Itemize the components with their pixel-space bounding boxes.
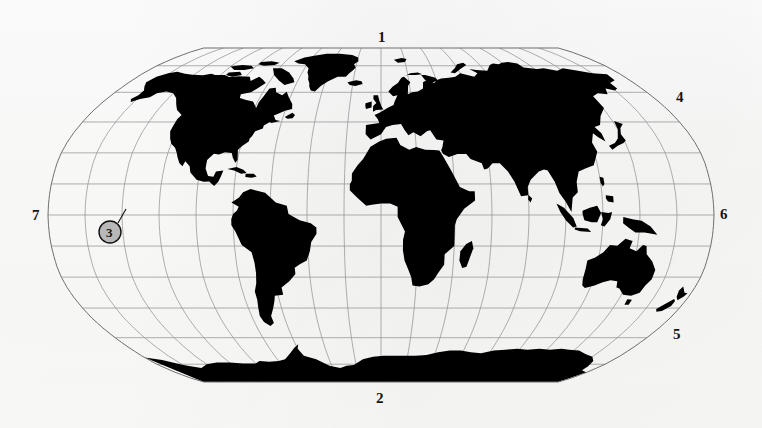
land-australia — [582, 239, 655, 296]
land-newfoundland — [285, 113, 295, 119]
land-africa — [350, 138, 475, 287]
land-japan — [609, 121, 626, 150]
landmasses — [131, 54, 688, 382]
map-label-6: 6 — [720, 207, 728, 222]
map-label-4: 4 — [676, 90, 684, 105]
land-java — [575, 227, 591, 232]
map-label-7: 7 — [32, 208, 40, 223]
land-svalbard — [394, 58, 407, 63]
land-new-zealand-north — [677, 286, 688, 300]
land-borneo — [583, 206, 602, 223]
land-tasmania — [624, 299, 632, 305]
map-label-5: 5 — [673, 327, 681, 342]
land-south-america — [231, 189, 316, 326]
map-label-2: 2 — [376, 391, 384, 406]
land-antarctica — [145, 344, 594, 382]
land-madagascar — [459, 241, 473, 268]
land-britain — [373, 95, 383, 112]
map-callout-label-3: 3 — [106, 226, 113, 239]
map-label-1: 1 — [378, 30, 386, 45]
land-new-zealand-south — [656, 299, 675, 312]
land-greenland — [294, 54, 358, 92]
land-north-america — [131, 72, 293, 186]
land-philippines-mindanao — [606, 195, 614, 202]
land-new-guinea — [623, 217, 657, 235]
land-ireland — [365, 102, 371, 109]
world-map-figure: 1 2 4 5 6 7 3 — [0, 0, 762, 428]
land-iceland — [347, 80, 362, 86]
world-map-svg — [0, 0, 762, 428]
land-novaya-zemlya — [451, 63, 467, 74]
graticule — [48, 48, 714, 382]
land-hispaniola — [245, 174, 256, 178]
land-victoria-island — [226, 72, 242, 77]
land-sumatra — [556, 204, 576, 228]
land-cuba — [227, 167, 246, 174]
land-baffin — [273, 68, 294, 85]
